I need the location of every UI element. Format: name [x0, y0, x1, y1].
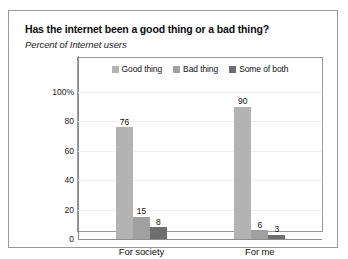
- y-axis-tick-label: 100%: [52, 87, 74, 97]
- bar[interactable]: [234, 107, 251, 239]
- bar-wrapper: 76: [116, 127, 133, 239]
- y-axis-tick-label: 0: [69, 234, 74, 244]
- y-axis-tick-label: 80: [65, 116, 74, 126]
- bar-wrapper: 6: [251, 230, 268, 239]
- bar-value-label: 6: [257, 221, 262, 230]
- bar-wrapper: 8: [150, 227, 167, 239]
- legend-swatch-some-of-both: [229, 66, 236, 73]
- y-axis-tick-label: 20: [65, 205, 74, 215]
- x-axis-category-label: For me: [245, 246, 275, 257]
- bar-value-label: 15: [137, 207, 146, 216]
- page-title: Has the internet been a good thing or a …: [25, 23, 269, 35]
- gridline: [78, 92, 322, 93]
- chart-legend: Good thing Bad thing Some of both: [78, 64, 322, 74]
- x-axis-line: [78, 239, 322, 240]
- bar-value-label: 90: [238, 97, 247, 106]
- legend-swatch-bad-thing: [173, 66, 180, 73]
- gridline: [78, 210, 322, 211]
- plot-area: 100%806040200 76158For society9063For me: [78, 92, 322, 240]
- bar[interactable]: [268, 235, 285, 239]
- bar-wrapper: 90: [234, 107, 251, 239]
- legend-item-bad-thing: Bad thing: [173, 64, 218, 74]
- chart-card: Has the internet been a good thing or a …: [8, 10, 338, 248]
- bar-value-label: 76: [120, 118, 129, 127]
- legend-label-some-of-both: Some of both: [239, 64, 288, 74]
- y-axis-tick-label: 40: [65, 175, 74, 185]
- legend-item-good-thing: Good thing: [112, 64, 163, 74]
- bar[interactable]: [150, 227, 167, 239]
- chart-subtitle: Percent of Internet users: [25, 39, 127, 50]
- legend-label-bad-thing: Bad thing: [183, 64, 218, 74]
- bar-wrapper: 3: [268, 235, 285, 239]
- bar-wrapper: 15: [133, 217, 150, 239]
- legend-label-good-thing: Good thing: [122, 64, 163, 74]
- bar-value-label: 3: [274, 225, 279, 234]
- bar[interactable]: [133, 217, 150, 239]
- legend-item-some-of-both: Some of both: [229, 64, 288, 74]
- y-axis-tick-label: 60: [65, 146, 74, 156]
- gridline: [78, 180, 322, 181]
- legend-swatch-good-thing: [112, 66, 119, 73]
- x-axis-category-label: For society: [119, 246, 164, 257]
- bar[interactable]: [116, 127, 133, 239]
- bar-group: 76158For society: [116, 127, 167, 239]
- bar[interactable]: [251, 230, 268, 239]
- gridline: [78, 121, 322, 122]
- gridline: [78, 151, 322, 152]
- bar-group: 9063For me: [234, 107, 285, 239]
- bar-value-label: 8: [156, 218, 161, 227]
- y-axis-line: [78, 56, 79, 240]
